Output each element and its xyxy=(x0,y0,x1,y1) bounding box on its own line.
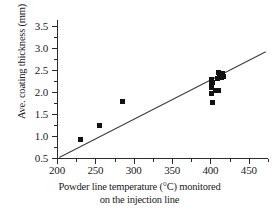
x-axis-tick-label: 350 xyxy=(152,165,192,176)
y-axis-tick-label: 1.0 xyxy=(6,131,48,142)
x-axis-title-line-2: on the injection line xyxy=(0,193,279,206)
x-axis-minor-tick xyxy=(230,159,231,162)
x-axis-minor-tick xyxy=(153,159,154,162)
x-axis-minor-tick xyxy=(191,159,192,162)
y-axis-tick-label: 3.0 xyxy=(6,43,48,54)
data-point xyxy=(97,123,102,128)
data-point xyxy=(216,88,221,93)
y-axis-tick-label: 2.0 xyxy=(6,87,48,98)
x-axis-tick-label: 450 xyxy=(229,165,269,176)
data-point xyxy=(216,70,221,75)
y-axis-tick-label: 3.5 xyxy=(6,21,48,32)
x-axis-title: Powder line temperature (°C) monitored o… xyxy=(0,180,279,206)
x-axis-tick-label: 300 xyxy=(114,165,154,176)
y-axis-tick-label: 2.5 xyxy=(6,65,48,76)
data-point xyxy=(210,100,215,105)
x-axis-tick-label: 400 xyxy=(190,165,230,176)
data-point xyxy=(209,77,214,82)
x-axis-tick-label: 250 xyxy=(75,165,115,176)
trend-line xyxy=(59,52,266,158)
data-point xyxy=(220,71,225,76)
data-point xyxy=(78,137,83,142)
x-axis-minor-tick xyxy=(268,159,269,162)
x-axis-spine xyxy=(57,158,268,159)
chart-figure: Ave. coating thickness (mm) 0.51.01.52.0… xyxy=(0,0,279,215)
x-axis-tick-label: 200 xyxy=(37,165,77,176)
y-axis-tick-label: 0.5 xyxy=(6,153,48,164)
y-axis-tick-label: 1.5 xyxy=(6,109,48,120)
data-point xyxy=(120,99,125,104)
x-axis-title-line-1: Powder line temperature (°C) monitored xyxy=(58,181,220,192)
x-axis-minor-tick xyxy=(76,159,77,162)
plot-area xyxy=(57,20,268,158)
x-axis-minor-tick xyxy=(115,159,116,162)
